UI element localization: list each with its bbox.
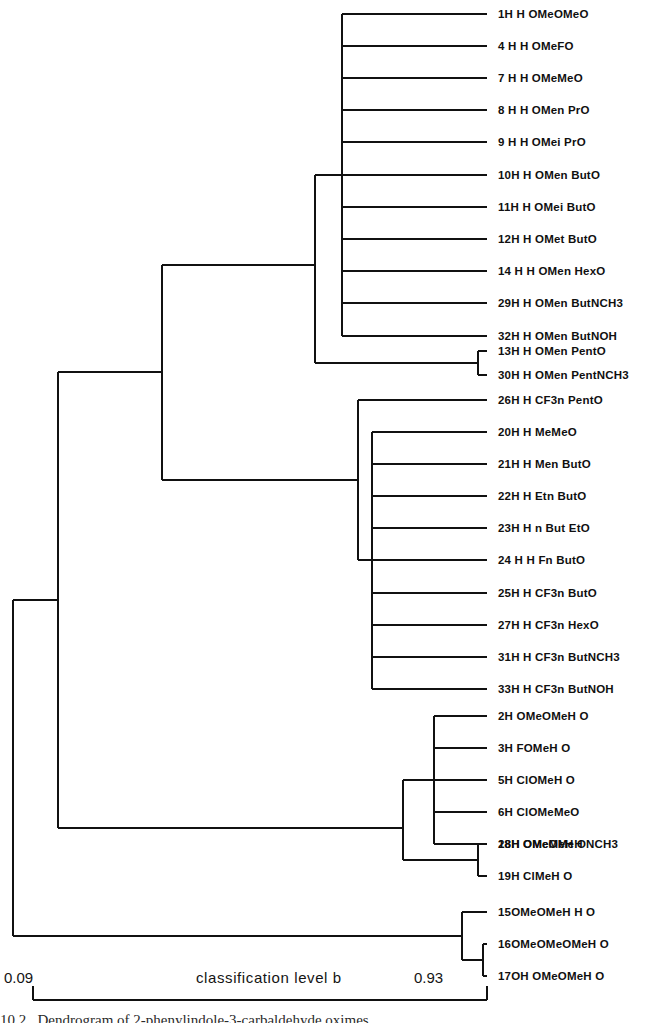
figure-caption-partial: 10.2 Dendrogram of 2-phenylindole-3-carb… bbox=[0, 1012, 657, 1023]
leaf-label-21: 21H H Men ButO bbox=[498, 458, 591, 470]
leaf-label-6: 6H ClOMeMeO bbox=[498, 806, 579, 818]
leaf-label-7: 7 H H OMeMeO bbox=[498, 72, 583, 84]
leaf-label-33: 33H H CF3n ButNOH bbox=[498, 683, 614, 695]
leaf-label-30: 30H H OMen PentNCH3 bbox=[498, 369, 629, 381]
leaf-label-19: 19H ClMeH O bbox=[498, 870, 572, 882]
leaf-label-10: 10H H OMen ButO bbox=[498, 169, 600, 181]
leaf-label-26: 26H H CF3n PentO bbox=[498, 394, 603, 406]
leaf-label-15: 15OMeOMeH H O bbox=[498, 906, 595, 918]
leaf-label-25: 25H H CF3n ButO bbox=[498, 587, 597, 599]
leaf-label-31: 31H H CF3n ButNCH3 bbox=[498, 651, 620, 663]
leaf-label-20: 20H H MeMeO bbox=[498, 426, 577, 438]
leaf-label-14: 14 H H OMen HexO bbox=[498, 265, 605, 277]
leaf-label-22: 22H H Etn ButO bbox=[498, 490, 586, 502]
dendrogram-figure: 1H H OMeOMeO 4 H H OMeFO 7 H H OMeMeO 8 … bbox=[0, 0, 657, 1023]
leaf-label-24: 24 H H Fn ButO bbox=[498, 554, 585, 566]
leaf-label-13: 13H H OMen PentO bbox=[498, 345, 606, 357]
leaf-label-16: 16OMeOMeOMeH O bbox=[498, 938, 609, 950]
leaf-label-8: 8 H H OMen PrO bbox=[498, 104, 590, 116]
leaf-label-4: 4 H H OMeFO bbox=[498, 40, 574, 52]
leaf-label-2: 2H OMeOMeH O bbox=[498, 710, 589, 722]
leaf-label-27: 27H H CF3n HexO bbox=[498, 619, 599, 631]
leaf-label-5: 5H ClOMeH O bbox=[498, 774, 575, 786]
leaf-label-23: 23H H n But EtO bbox=[498, 522, 590, 534]
leaf-label-29: 29H H OMen ButNCH3 bbox=[498, 297, 623, 309]
leaf-label-11: 11H H OMei ButO bbox=[498, 201, 596, 213]
scale-caption: classification level b bbox=[196, 969, 342, 986]
leaf-label-17: 17OH OMeOMeH O bbox=[498, 970, 604, 982]
leaf-label-1: 1H H OMeOMeO bbox=[498, 8, 589, 20]
leaf-label-3: 3H FOMeH O bbox=[498, 742, 570, 754]
leaf-label-9: 9 H H OMei PrO bbox=[498, 136, 586, 148]
scale-right-value: 0.93 bbox=[414, 969, 443, 986]
leaf-label-32: 32H H OMen ButNOH bbox=[498, 330, 617, 342]
leaf-label-18: 18H OMeMeH O bbox=[498, 838, 586, 850]
scale-left-value: 0.09 bbox=[4, 969, 33, 986]
leaf-label-12: 12H H OMet ButO bbox=[498, 233, 597, 245]
